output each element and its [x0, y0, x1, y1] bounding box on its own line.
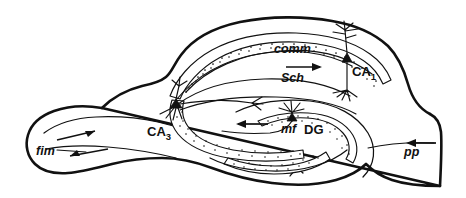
- ca3-axon-terminal-fan: [252, 97, 263, 110]
- hippocampal-circuit-figure: comm Sch CA1 CA3 mf DG fim pp: [0, 0, 466, 198]
- label-dg: DG: [304, 122, 324, 137]
- label-ca1-subscript: 1: [371, 71, 377, 82]
- ca1-soma: [342, 53, 352, 62]
- label-pp: pp: [403, 145, 420, 159]
- label-ca1-text: CA: [352, 64, 371, 79]
- entorhinal-right-edge: [430, 114, 441, 186]
- sch-arrow: [286, 63, 322, 71]
- label-ca3-text: CA: [147, 124, 166, 139]
- fimbria-lower-wall: [46, 146, 176, 158]
- label-mf: mf: [281, 122, 298, 136]
- fimbria-arrow-efferent: [57, 131, 95, 140]
- label-fim: fim: [36, 144, 55, 158]
- sch-fibre: [178, 79, 350, 104]
- ca1-pyramidal-neuron: [333, 21, 358, 101]
- ca1-basal-dendrites: [333, 90, 357, 101]
- label-comm: comm: [274, 42, 311, 56]
- hippocampus-diagram-svg: comm Sch CA1 CA3 mf DG fim pp: [0, 0, 466, 198]
- label-ca3: CA3: [147, 124, 171, 142]
- label-ca3-subscript: 3: [166, 131, 171, 142]
- ca3-axon-collateral: [180, 100, 252, 104]
- dg-dendrites: [279, 101, 304, 113]
- label-sch: Sch: [281, 71, 304, 85]
- fim-leader-line: [57, 150, 86, 152]
- fimbria-arrow-afferent: [70, 149, 108, 156]
